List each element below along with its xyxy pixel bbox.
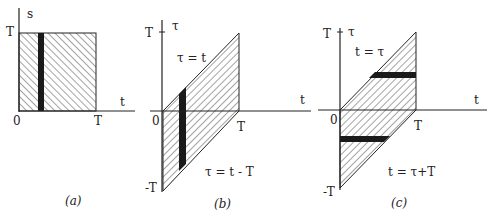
caption-a: (a) bbox=[65, 194, 82, 208]
origin-label: 0 bbox=[13, 114, 21, 128]
x-tick-T: T bbox=[414, 119, 422, 133]
y-tick-minus-T: -T bbox=[145, 181, 157, 195]
vertical-strip bbox=[38, 33, 44, 111]
tau-axis-label: τ bbox=[348, 25, 355, 39]
origin-label: 0 bbox=[152, 114, 160, 128]
t-axis-label: t bbox=[120, 95, 125, 109]
panel-a: s T t 0 T (a) bbox=[6, 7, 135, 208]
integration-region-diagram: s T t 0 T (a) τ T t 0 T -T τ = t τ = t -… bbox=[0, 0, 487, 219]
t-axis-label: t bbox=[300, 93, 305, 107]
vertical-strip bbox=[179, 87, 186, 171]
tau-axis-label: τ bbox=[172, 19, 179, 33]
lower-horizontal-strip bbox=[340, 136, 390, 142]
origin-label: 0 bbox=[330, 113, 338, 127]
caption-c: (c) bbox=[391, 196, 407, 210]
lower-line-label: t = τ+T bbox=[388, 165, 435, 179]
y-tick-minus-T: -T bbox=[323, 185, 335, 199]
upper-line-label: t = τ bbox=[355, 45, 385, 59]
x-tick-T: T bbox=[94, 114, 102, 128]
caption-b: (b) bbox=[214, 197, 231, 211]
s-axis-label: s bbox=[27, 7, 33, 21]
lower-line-label: τ = t - T bbox=[205, 165, 254, 179]
panel-b: τ T t 0 T -T τ = t τ = t - T (b) bbox=[145, 19, 311, 211]
x-tick-T: T bbox=[237, 120, 245, 134]
y-tick-T: T bbox=[323, 27, 331, 41]
y-tick-T: T bbox=[145, 26, 153, 40]
figure: s T t 0 T (a) τ T t 0 T -T τ = t τ = t -… bbox=[0, 0, 487, 219]
y-tick-T: T bbox=[6, 25, 14, 39]
upper-horizontal-strip bbox=[369, 72, 416, 78]
upper-line-label: τ = t bbox=[177, 51, 206, 65]
panel-c: τ T t 0 T -T t = τ t = τ+T (c) bbox=[318, 25, 487, 210]
square-region bbox=[19, 33, 96, 111]
t-axis-label: t bbox=[474, 93, 479, 107]
